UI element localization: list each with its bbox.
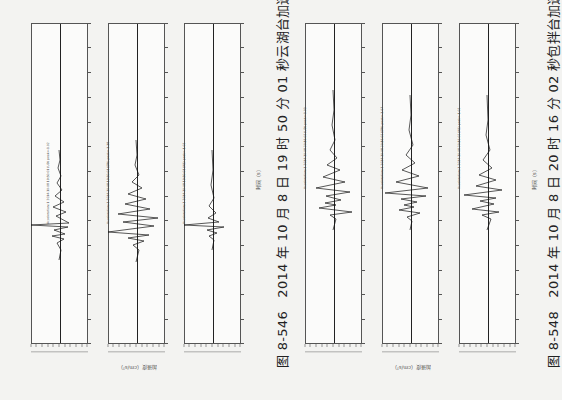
fig548-time-axis-title: 时间（s） <box>530 167 537 190</box>
fig546-time-axis-title: 时间（s） <box>254 167 261 190</box>
fig548-caption: 图 8-548 2014 年 10 月 8 日 20 时 16 分 02 秒包拌… <box>543 0 562 368</box>
fig548-amplitude-axis-title: 加速度（cm/s²） <box>392 365 431 372</box>
fig546-caption: 图 8-546 2014 年 10 月 8 日 19 时 50 分 01 秒云湖… <box>272 0 291 368</box>
fig546-amplitude-axis-title: 加速度（cm/s²） <box>118 365 157 372</box>
